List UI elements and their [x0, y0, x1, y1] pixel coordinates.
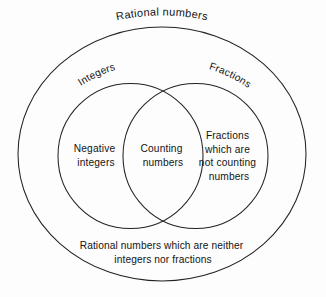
region-outside-circles-line-2: integers nor fractions — [114, 254, 211, 265]
region-outside-circles-line-1: Rational numbers which are neither — [80, 240, 244, 251]
region-right-only-line-2: which are — [204, 144, 250, 155]
outer-set-title-text: Rational numbers — [115, 5, 209, 22]
region-label-right-only: Fractions which are not counting numbers — [199, 130, 259, 182]
region-label-intersection: Counting numbers — [141, 143, 186, 168]
region-left-only-line-2: integers — [77, 157, 114, 168]
right-set-label-text: Fractions — [208, 60, 253, 89]
region-left-only-line-1: Negative — [74, 143, 116, 154]
region-right-only-line-1: Fractions — [206, 130, 249, 141]
outer-set-title: Rational numbers — [115, 5, 209, 22]
region-label-outside-circles: Rational numbers which are neither integ… — [80, 240, 247, 265]
region-right-only-line-4: numbers — [209, 171, 250, 182]
left-set-label: Integers — [76, 61, 117, 88]
right-set-label: Fractions — [208, 60, 253, 89]
region-intersection-line-1: Counting — [141, 143, 183, 154]
left-set-label-text: Integers — [76, 61, 117, 88]
venn-diagram-figure: Rational numbers Integers Fractions Nega… — [0, 0, 326, 297]
region-label-left-only: Negative integers — [74, 143, 118, 168]
venn-diagram-canvas: Rational numbers Integers Fractions Nega… — [0, 0, 326, 297]
region-right-only-line-3: not counting — [199, 157, 256, 168]
region-intersection-line-2: numbers — [143, 157, 184, 168]
